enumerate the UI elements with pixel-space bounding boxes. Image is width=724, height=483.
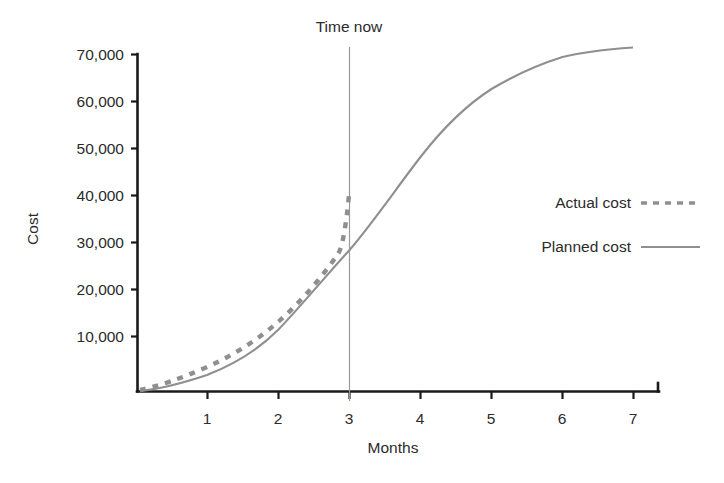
x-tick-label-3: 3 [345, 410, 354, 427]
x-tick-label-7: 7 [629, 410, 638, 427]
legend-label-planned-cost: Planned cost [541, 238, 631, 255]
time-now-label: Time now [316, 18, 383, 35]
y-tick-label-30000: 30,000 [77, 234, 125, 251]
legend-label-actual-cost: Actual cost [555, 194, 632, 211]
x-tick-label-5: 5 [487, 410, 496, 427]
y-tick-label-10000: 10,000 [77, 328, 125, 345]
chart-page: 70,000 60,000 50,000 40,000 30,000 20,00… [0, 0, 724, 483]
x-tick-label-2: 2 [274, 410, 283, 427]
y-tick-label-50000: 50,000 [77, 140, 125, 157]
y-tick-label-20000: 20,000 [77, 281, 125, 298]
y-tick-label-60000: 60,000 [77, 93, 125, 110]
x-tick-label-6: 6 [558, 410, 567, 427]
y-tick-label-40000: 40,000 [77, 187, 125, 204]
cost-s-curve-chart: 70,000 60,000 50,000 40,000 30,000 20,00… [0, 0, 724, 483]
x-tick-label-4: 4 [416, 410, 425, 427]
y-tick-label-70000: 70,000 [77, 46, 125, 63]
x-tick-label-1: 1 [203, 410, 212, 427]
y-axis-title: Cost [24, 212, 41, 245]
x-axis-title: Months [368, 439, 419, 456]
